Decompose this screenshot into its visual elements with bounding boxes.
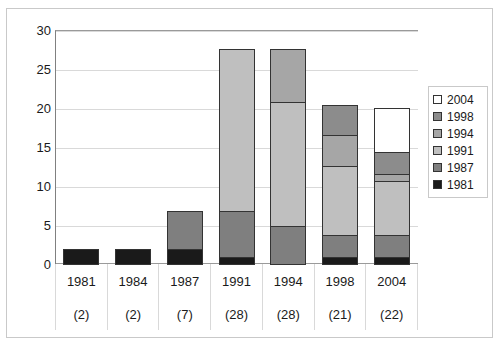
stacked-bar[interactable] [115,249,151,264]
bar-segment[interactable] [322,135,358,166]
stacked-bar[interactable] [270,49,306,264]
x-axis-count-label: (2) [73,308,89,321]
bar-segment[interactable] [322,166,358,236]
x-axis-cell: 1987(7) [159,264,211,330]
bar-segment[interactable] [374,108,410,153]
x-axis-cell: 1994(28) [263,264,315,330]
x-axis-cell: 1991(28) [211,264,263,330]
x-axis-cell: 1998(21) [315,264,367,330]
legend-swatch-icon [433,129,442,138]
legend-item[interactable]: 1998 [433,108,484,125]
bar-segment[interactable] [63,249,99,265]
stacked-bar[interactable] [167,211,203,264]
x-axis-year-label: 1998 [325,275,354,288]
x-axis-count-label: (28) [277,308,300,321]
bar-segment[interactable] [322,235,358,258]
y-axis-tick-label: 20 [7,102,51,115]
x-axis-count-label: (28) [225,308,248,321]
bar-segment[interactable] [115,249,151,265]
legend-label: 1991 [447,145,474,157]
bar-segment[interactable] [322,105,358,136]
bar-series-group [55,30,418,264]
legend-item[interactable]: 1987 [433,159,484,176]
stacked-bar[interactable] [374,108,410,264]
bar-slot [159,30,211,264]
stacked-bar[interactable] [63,249,99,264]
x-axis-cell: 2004(22) [366,264,418,330]
y-axis-tick-label: 10 [7,180,51,193]
legend-item[interactable]: 1994 [433,125,484,142]
y-axis-tick-label: 5 [7,219,51,232]
legend-label: 2004 [447,94,474,106]
legend-label: 1987 [447,162,474,174]
legend-item[interactable]: 2004 [433,91,484,108]
bar-slot [55,30,107,264]
bar-segment[interactable] [270,226,306,265]
legend-swatch-icon [433,163,442,172]
y-axis-tick-label: 30 [7,24,51,37]
bar-slot [107,30,159,264]
legend-swatch-icon [433,95,442,104]
legend-label: 1998 [447,111,474,123]
x-axis-year-label: 1987 [170,275,199,288]
x-axis-cell: 1984(2) [108,264,160,330]
chart-container: 051015202530 1981(2)1984(2)1987(7)1991(2… [0,0,500,345]
y-axis-tick-label: 15 [7,141,51,154]
legend-swatch-icon [433,146,442,155]
stacked-bar[interactable] [219,49,255,264]
legend-item[interactable]: 1981 [433,176,484,193]
bar-segment[interactable] [219,49,255,213]
y-axis-tick-label: 25 [7,63,51,76]
x-axis-year-label: 2004 [377,275,406,288]
legend-swatch-icon [433,180,442,189]
x-axis-count-label: (22) [380,308,403,321]
bar-segment[interactable] [270,49,306,104]
bar-segment[interactable] [374,181,410,236]
legend-swatch-icon [433,112,442,121]
x-axis-year-label: 1994 [274,275,303,288]
bar-segment[interactable] [374,152,410,175]
bar-segment[interactable] [270,102,306,227]
x-axis-year-label: 1991 [222,275,251,288]
legend-label: 1994 [447,128,474,140]
legend-label: 1981 [447,179,474,191]
bar-segment[interactable] [219,211,255,258]
y-axis-labels: 051015202530 [4,30,51,264]
chart-title [0,0,500,7]
chart-legend: 200419981994199119871981 [428,86,488,198]
bar-segment[interactable] [374,235,410,258]
bar-slot [211,30,263,264]
stacked-bar[interactable] [322,105,358,264]
bar-segment[interactable] [167,211,203,250]
x-axis-count-label: (21) [328,308,351,321]
x-axis-year-label: 1984 [119,275,148,288]
x-axis-count-label: (7) [177,308,193,321]
x-axis-cell: 1981(2) [55,264,108,330]
x-axis-count-label: (2) [125,308,141,321]
legend-item[interactable]: 1991 [433,142,484,159]
y-axis-tick-label: 0 [7,258,51,271]
x-axis-labels: 1981(2)1984(2)1987(7)1991(28)1994(28)199… [55,264,418,330]
bar-slot [314,30,366,264]
bar-slot [366,30,418,264]
bar-slot [262,30,314,264]
bar-segment[interactable] [167,249,203,265]
x-axis-year-label: 1981 [67,275,96,288]
